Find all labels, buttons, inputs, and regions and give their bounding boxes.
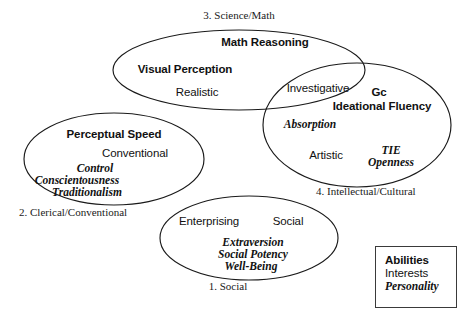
- item-absorption: Absorption: [284, 118, 336, 130]
- legend-row-abilities: Abilities: [385, 254, 456, 266]
- item-visual-perception: Visual Perception: [138, 63, 233, 75]
- item-artistic: Artistic: [309, 149, 343, 161]
- legend-row-interests: Interests: [385, 267, 456, 279]
- item-conscientousness: Conscientousness: [35, 174, 119, 186]
- item-conventional: Conventional: [102, 147, 168, 159]
- item-math-reasoning: Math Reasoning: [221, 36, 308, 48]
- item-tie: TIE: [381, 144, 400, 156]
- group-label-clerical-conventional: 2. Clerical/Conventional: [19, 207, 127, 219]
- item-social-potency: Social Potency: [218, 248, 288, 260]
- item-well-being: Well-Being: [225, 260, 278, 272]
- item-gc: Gc: [371, 86, 386, 98]
- item-enterprising: Enterprising: [179, 215, 239, 227]
- diagram-canvas: 3. Science/Math 4. Intellectual/Cultural…: [0, 0, 473, 320]
- item-openness: Openness: [368, 156, 414, 168]
- group-label-social: 1. Social: [209, 281, 248, 293]
- group-label-science-math: 3. Science/Math: [203, 10, 274, 22]
- legend-row-personality: Personality: [385, 280, 456, 292]
- item-perceptual-speed: Perceptual Speed: [67, 128, 162, 140]
- item-realistic: Realistic: [176, 86, 219, 98]
- item-traditionalism: Traditionalism: [52, 186, 122, 198]
- item-ideational-fluency: Ideational Fluency: [333, 100, 432, 112]
- legend-box: Abilities Interests Personality: [375, 246, 457, 308]
- group-label-intellectual-cultural: 4. Intellectual/Cultural: [316, 186, 416, 198]
- item-control: Control: [77, 162, 113, 174]
- item-extraversion: Extraversion: [222, 236, 283, 248]
- item-social: Social: [273, 215, 304, 227]
- item-investigative: Investigative: [287, 82, 350, 94]
